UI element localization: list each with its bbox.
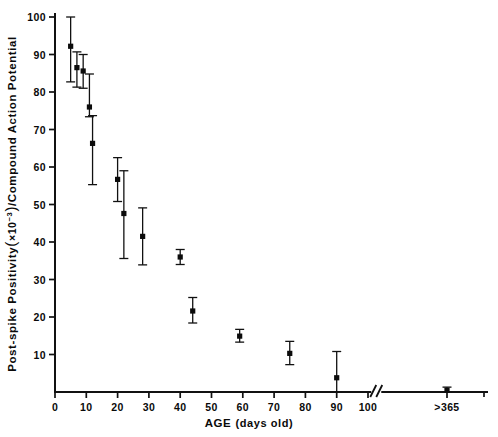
y-tick-label: 20 bbox=[34, 311, 46, 323]
data-marker bbox=[81, 68, 86, 73]
data-marker bbox=[237, 334, 242, 339]
x-tick-label: 70 bbox=[268, 401, 280, 413]
data-marker bbox=[90, 141, 95, 146]
data-point bbox=[332, 352, 341, 393]
x-tick-label: 0 bbox=[52, 401, 58, 413]
y-tick-label: 90 bbox=[34, 49, 46, 61]
data-point bbox=[188, 298, 197, 324]
data-marker bbox=[140, 234, 145, 239]
x-tick-label: 30 bbox=[143, 401, 155, 413]
data-point bbox=[113, 158, 122, 202]
data-marker bbox=[334, 375, 339, 380]
y-tick-label: 80 bbox=[34, 86, 46, 98]
x-tick-label: 40 bbox=[174, 401, 186, 413]
data-point bbox=[119, 171, 128, 259]
data-point bbox=[285, 341, 294, 364]
data-point bbox=[66, 17, 75, 82]
y-tick-label: 60 bbox=[34, 161, 46, 173]
data-marker bbox=[121, 211, 126, 216]
data-marker bbox=[444, 388, 449, 393]
y-tick-label: 100 bbox=[27, 11, 46, 23]
y-tick-label: 30 bbox=[34, 274, 46, 286]
x-tick-label: 50 bbox=[205, 401, 217, 413]
x-tick-label: 20 bbox=[111, 401, 123, 413]
data-marker bbox=[87, 104, 92, 109]
x-tick-label: >365 bbox=[434, 401, 459, 413]
axes bbox=[55, 14, 487, 392]
data-point bbox=[79, 55, 88, 89]
y-tick-label: 10 bbox=[34, 349, 46, 361]
y-tick-label: 50 bbox=[34, 199, 46, 211]
data-point bbox=[235, 329, 244, 342]
y-axis-title: Post-spike Positivity(×10−3)/Compound Ac… bbox=[2, 36, 19, 372]
data-point bbox=[443, 387, 452, 393]
data-marker bbox=[74, 65, 79, 70]
x-axis-title: AGE(days old) bbox=[205, 417, 294, 429]
y-tick-label: 40 bbox=[34, 236, 46, 248]
data-point bbox=[88, 116, 97, 185]
data-marker bbox=[178, 254, 183, 259]
axis-break-symbol bbox=[370, 385, 382, 397]
x-tick-label: 90 bbox=[330, 401, 342, 413]
x-tick-label: 100 bbox=[359, 401, 378, 413]
x-tick-label: 60 bbox=[237, 401, 249, 413]
scatter-plot-with-error-bars: 102030405060708090100 010203040506070809… bbox=[0, 0, 498, 437]
data-marker bbox=[287, 351, 292, 356]
data-series bbox=[66, 17, 451, 393]
data-point bbox=[138, 208, 147, 265]
figure-container: 102030405060708090100 010203040506070809… bbox=[0, 0, 498, 437]
x-tick-label: 10 bbox=[80, 401, 92, 413]
y-tick-labels: 102030405060708090100 bbox=[27, 11, 46, 361]
x-tick-labels: 0102030405060708090100>365 bbox=[52, 401, 460, 413]
x-tick-label: 80 bbox=[299, 401, 311, 413]
data-point bbox=[85, 74, 94, 117]
data-point bbox=[176, 250, 185, 265]
data-marker bbox=[68, 44, 73, 49]
y-tick-label: 70 bbox=[34, 124, 46, 136]
data-marker bbox=[190, 308, 195, 313]
svg-text:Post-spike Positivity(×10−3)/C: Post-spike Positivity(×10−3)/Compound Ac… bbox=[2, 36, 19, 372]
svg-text:AGE(days old): AGE(days old) bbox=[205, 417, 294, 429]
data-marker bbox=[115, 177, 120, 182]
